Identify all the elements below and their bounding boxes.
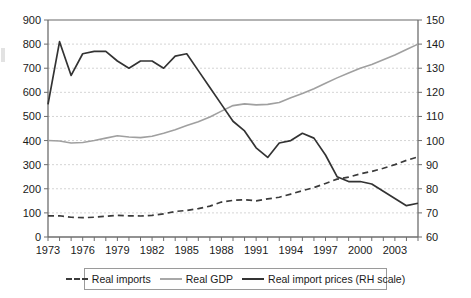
legend-label-real-gdp: Real GDP	[186, 274, 233, 285]
axis-tick-labels: 0100200300400500600700800900607080901001…	[23, 14, 445, 256]
y-axis-left-tick-label: 200	[23, 183, 41, 195]
x-axis-tick-label: 1979	[105, 244, 129, 256]
y-axis-left-tick-label: 100	[23, 207, 41, 219]
chart-container: 0100200300400500600700800900607080901001…	[0, 0, 471, 298]
y-axis-right-tick-label: 150	[426, 14, 444, 26]
y-axis-right-tick-label: 80	[426, 183, 438, 195]
y-axis-right-tick-label: 100	[426, 135, 444, 147]
x-axis-tick-label: 2000	[348, 244, 372, 256]
y-axis-right-tick-label: 140	[426, 38, 444, 50]
gridlines	[48, 44, 418, 213]
y-axis-left-tick-label: 300	[23, 159, 41, 171]
y-axis-left-tick-label: 600	[23, 86, 41, 98]
series-line-real-imports	[48, 157, 418, 218]
y-axis-right-tick-label: 70	[426, 207, 438, 219]
y-axis-right-tick-label: 130	[426, 62, 444, 74]
y-axis-left-tick-label: 700	[23, 62, 41, 74]
line-chart-svg: 0100200300400500600700800900607080901001…	[0, 0, 471, 298]
legend-item-real-gdp: Real GDP	[160, 274, 233, 285]
legend-item-real-import-prices: Real import prices (RH scale)	[242, 274, 405, 285]
x-axis-tick-label: 1982	[140, 244, 164, 256]
y-axis-right-tick-label: 90	[426, 159, 438, 171]
x-axis-tick-label: 1988	[209, 244, 233, 256]
legend-swatch-gdp-icon	[160, 278, 182, 280]
y-axis-right-tick-label: 60	[426, 231, 438, 243]
series-line-real-import-prices	[48, 42, 418, 206]
x-axis-tick-label: 1976	[70, 244, 94, 256]
legend-label-real-import-prices: Real import prices (RH scale)	[268, 274, 405, 285]
x-axis-tick-label: 1973	[36, 244, 60, 256]
y-axis-left-tick-label: 500	[23, 110, 41, 122]
x-axis-tick-label: 1991	[244, 244, 268, 256]
legend-swatch-dashed-icon	[66, 278, 88, 280]
x-axis-tick-label: 2003	[383, 244, 407, 256]
chart-legend: Real imports Real GDP Real import prices…	[84, 268, 387, 290]
legend-swatch-prices-icon	[242, 278, 264, 280]
series-line-real-gdp	[48, 44, 418, 143]
y-axis-left-tick-label: 400	[23, 135, 41, 147]
axis-ticks	[44, 20, 422, 241]
legend-label-real-imports: Real imports	[92, 274, 151, 285]
x-axis-tick-label: 1994	[279, 244, 303, 256]
y-axis-left-tick-label: 900	[23, 14, 41, 26]
y-axis-right-tick-label: 110	[426, 110, 444, 122]
y-axis-left-tick-label: 800	[23, 38, 41, 50]
x-axis-tick-label: 1997	[313, 244, 337, 256]
x-axis-tick-label: 1985	[175, 244, 199, 256]
y-axis-right-tick-label: 120	[426, 86, 444, 98]
legend-item-real-imports: Real imports	[66, 274, 151, 285]
plot-frame	[48, 20, 418, 237]
y-axis-left-tick-label: 0	[35, 231, 41, 243]
